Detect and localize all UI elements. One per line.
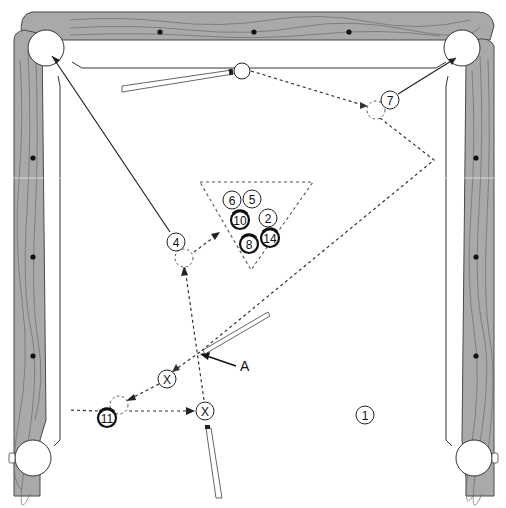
arrowhead-icon [186,407,195,415]
contact-point-marker: X [158,370,176,388]
arrowhead-icon [211,232,220,240]
ball-number: 5 [249,193,256,207]
cue-stick-top [122,70,233,92]
ball-14: 14 [261,229,279,247]
ball-11: 11 [98,409,116,427]
ball-6: 6 [223,191,241,209]
cue-tip-icon [229,69,234,75]
path-x-to-4 [185,268,204,400]
ball-number: 14 [263,232,277,246]
right-rail [462,39,494,505]
diamond-marker-icon [473,353,478,358]
ball-10: 10 [231,211,249,229]
ball-1: 1 [356,406,374,424]
arrowhead-icon [172,364,180,372]
pocket-bottom-left [15,440,51,476]
ball-number: 11 [101,412,114,426]
diamond-marker-icon [30,155,35,160]
ball-2: 2 [259,209,277,227]
path-7-to-pocket [398,58,456,94]
path-cue-rebound [200,118,434,352]
diamond-marker-icon [157,29,162,34]
ball-5: 5 [243,190,261,208]
ghost-ball [175,249,193,267]
cue-tip-icon [205,425,210,429]
pocket-liner [9,453,15,463]
ball-number: 7 [387,94,394,108]
path-11-to-rail [70,410,98,411]
arrowhead-icon [126,394,136,401]
diamond-marker-icon [473,254,478,259]
ball-number: 2 [265,212,272,226]
ball-number: X [163,373,171,387]
diamond-marker-icon [346,29,351,34]
diamond-marker-icon [251,29,256,34]
annotation-label-a: A [240,358,250,374]
ball-number: 10 [233,214,247,228]
top-rail [21,12,494,40]
ball-number: 6 [229,194,236,208]
ball-number: 4 [173,236,180,250]
object-balls: 6510214847111XX [98,91,399,427]
pool-diagram: 6510214847111XX A [0,0,506,508]
cushion-outline [54,62,452,446]
pool-table: 6510214847111XX A [0,0,506,508]
arrowhead-icon [181,266,188,276]
cue-stick-bottom [206,428,222,498]
ball-number: X [201,405,209,419]
ball-4: 4 [167,233,185,251]
cue-stick-middle [203,312,270,354]
cue-ball [234,63,250,79]
ball-number: 1 [362,409,369,423]
path-cue-to-7 [251,71,366,106]
ball-8: 8 [240,235,258,253]
diamond-marker-icon [473,155,478,160]
left-rail [14,30,46,505]
diamond-marker-icon [30,254,35,259]
ball-7: 7 [381,91,399,109]
diamond-marker-icon [30,353,35,358]
contact-point-marker: X [196,402,214,420]
cue-sticks [122,69,270,498]
pocket-bottom-right [456,440,492,476]
pocket-liner [492,453,498,463]
ball-number: 8 [246,238,253,252]
